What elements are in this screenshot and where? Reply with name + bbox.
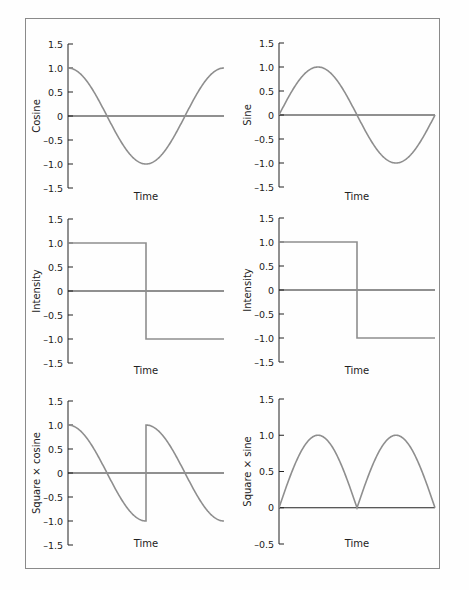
y-tick-label: –0.5 bbox=[254, 309, 274, 320]
y-axis-title: Cosine bbox=[31, 99, 42, 133]
y-axis-title: Square × sine bbox=[242, 436, 253, 506]
y-tick-label: 1.0 bbox=[48, 63, 63, 74]
y-tick-label: 0.5 bbox=[48, 444, 63, 455]
y-tick-label: –0.5 bbox=[254, 134, 274, 145]
x-axis-title: Time bbox=[344, 538, 369, 549]
y-tick-label: –1.5 bbox=[43, 358, 63, 369]
series-line bbox=[279, 435, 435, 508]
y-tick-label: 1.5 bbox=[48, 39, 63, 50]
y-tick-label: 1.5 bbox=[259, 394, 274, 405]
y-tick-label: 1.5 bbox=[48, 396, 63, 407]
y-tick-label: –0.5 bbox=[254, 539, 274, 550]
y-tick-label: 0.5 bbox=[48, 262, 63, 273]
y-tick-label: 0 bbox=[268, 285, 274, 296]
x-axis-title: Time bbox=[344, 191, 369, 202]
x-axis-title: Time bbox=[133, 365, 158, 376]
x-axis-title: Time bbox=[344, 365, 369, 376]
y-tick-label: –1.5 bbox=[43, 183, 63, 194]
x-axis-title: Time bbox=[133, 538, 158, 549]
y-tick-label: 0.5 bbox=[259, 261, 274, 272]
y-tick-label: –1.0 bbox=[43, 516, 63, 527]
y-tick-label: –1.0 bbox=[254, 333, 274, 344]
chart-panel-middle-right: 1.51.00.50–0.5–1.0–1.5TimeIntensity bbox=[242, 213, 435, 377]
y-axis-title: Square × cosine bbox=[31, 432, 42, 514]
y-tick-label: 0 bbox=[57, 286, 63, 297]
y-tick-label: 0 bbox=[57, 468, 63, 479]
y-tick-label: –0.5 bbox=[43, 135, 63, 146]
figure-plots: 1.51.00.50–0.5–1.0–1.5TimeCosine1.51.00.… bbox=[0, 0, 469, 590]
y-tick-label: 1.0 bbox=[48, 420, 63, 431]
x-axis-title: Time bbox=[133, 191, 158, 202]
y-tick-label: 0.5 bbox=[259, 86, 274, 97]
chart-panel-bottom-left: 1.51.00.50–0.5–1.0–1.5TimeSquare × cosin… bbox=[31, 396, 224, 551]
y-tick-label: 0 bbox=[268, 502, 274, 513]
y-tick-label: 1.0 bbox=[48, 238, 63, 249]
chart-panel-top-left: 1.51.00.50–0.5–1.0–1.5TimeCosine bbox=[31, 39, 224, 203]
y-tick-label: 1.0 bbox=[259, 62, 274, 73]
y-tick-label: –0.5 bbox=[43, 492, 63, 503]
y-tick-label: –1.5 bbox=[254, 357, 274, 368]
y-tick-label: –1.0 bbox=[43, 159, 63, 170]
chart-panel-top-right: 1.51.00.50–0.5–1.0–1.5TimeSine bbox=[242, 38, 435, 203]
y-tick-label: 1.0 bbox=[259, 237, 274, 248]
y-tick-label: 1.0 bbox=[259, 430, 274, 441]
y-axis-title: Intensity bbox=[31, 269, 42, 313]
y-axis-title: Intensity bbox=[242, 268, 253, 312]
y-tick-label: –1.5 bbox=[254, 182, 274, 193]
y-tick-label: 1.5 bbox=[259, 213, 274, 224]
y-tick-label: 0 bbox=[57, 111, 63, 122]
y-tick-label: 0.5 bbox=[259, 466, 274, 477]
y-tick-label: –1.5 bbox=[43, 540, 63, 551]
y-tick-label: 1.5 bbox=[259, 38, 274, 49]
y-tick-label: 0 bbox=[268, 110, 274, 121]
y-tick-label: –1.0 bbox=[254, 158, 274, 169]
chart-panel-bottom-right: 1.51.00.50–0.5TimeSquare × sine bbox=[242, 394, 435, 550]
y-axis-title: Sine bbox=[242, 104, 253, 126]
y-tick-label: 0.5 bbox=[48, 87, 63, 98]
y-tick-label: 1.5 bbox=[48, 214, 63, 225]
chart-panel-middle-left: 1.51.00.50–0.5–1.0–1.5TimeIntensity bbox=[31, 214, 224, 377]
y-tick-label: –1.0 bbox=[43, 334, 63, 345]
y-tick-label: –0.5 bbox=[43, 310, 63, 321]
